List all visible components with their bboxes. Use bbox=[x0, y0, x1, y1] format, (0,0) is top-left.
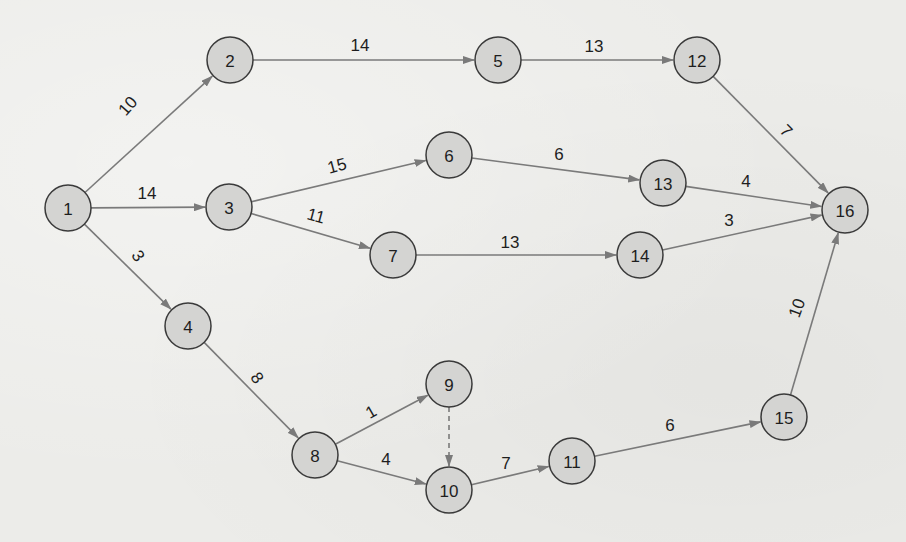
activity-arrow-1-2 bbox=[85, 76, 212, 192]
activity-duration-label-11-15: 6 bbox=[665, 416, 674, 435]
network-diagram: 10143141315116137438147610 1234567891011… bbox=[0, 0, 906, 542]
activity-duration-label-3-7: 11 bbox=[305, 205, 327, 228]
event-node-5: 5 bbox=[475, 37, 521, 83]
activity-arrow-12-16 bbox=[713, 76, 828, 193]
activity-arrow-1-4 bbox=[84, 224, 170, 309]
activity-duration-label-12-16: 7 bbox=[776, 121, 796, 141]
node-label: 8 bbox=[310, 447, 319, 466]
event-node-8: 8 bbox=[292, 432, 338, 478]
node-label: 6 bbox=[444, 147, 453, 166]
activity-duration-label-2-5: 14 bbox=[351, 36, 370, 55]
node-label: 4 bbox=[183, 318, 192, 337]
event-node-4: 4 bbox=[165, 303, 211, 349]
event-node-1: 1 bbox=[45, 185, 91, 231]
activity-duration-label-8-9: 1 bbox=[362, 401, 380, 422]
event-node-2: 2 bbox=[207, 37, 253, 83]
event-node-12: 12 bbox=[674, 37, 720, 83]
event-node-9: 9 bbox=[426, 361, 472, 407]
activity-on-arrow-diagram: 10143141315116137438147610 1234567891011… bbox=[0, 0, 906, 542]
activity-duration-label-3-6: 15 bbox=[325, 154, 348, 177]
event-node-7: 7 bbox=[370, 232, 416, 278]
node-label: 1 bbox=[63, 200, 72, 219]
activity-arrow-11-15 bbox=[595, 422, 761, 456]
activity-arrow-4-8 bbox=[204, 342, 298, 438]
event-node-11: 11 bbox=[549, 438, 595, 484]
node-label: 3 bbox=[224, 199, 233, 218]
activity-duration-label-4-8: 8 bbox=[247, 369, 268, 388]
activity-duration-label-10-11: 7 bbox=[501, 454, 510, 473]
activity-duration-label-14-16: 3 bbox=[724, 211, 733, 230]
node-label: 2 bbox=[225, 52, 234, 71]
node-label: 9 bbox=[444, 376, 453, 395]
activity-duration-label-15-16: 10 bbox=[785, 296, 809, 320]
activity-duration-label-6-13: 6 bbox=[554, 145, 563, 164]
event-node-10: 10 bbox=[426, 467, 472, 513]
activity-arrow-8-9 bbox=[335, 395, 427, 444]
activity-arrow-14-16 bbox=[662, 215, 821, 250]
edges-layer bbox=[84, 60, 838, 485]
event-node-14: 14 bbox=[617, 232, 663, 278]
node-label: 15 bbox=[775, 409, 794, 428]
activity-duration-label-13-16: 4 bbox=[741, 172, 750, 191]
node-label: 16 bbox=[836, 202, 855, 221]
activity-arrow-1-3 bbox=[91, 207, 205, 208]
activity-duration-label-1-4: 3 bbox=[128, 247, 149, 266]
activity-duration-label-1-2: 10 bbox=[115, 93, 142, 120]
edge-labels-layer: 10143141315116137438147610 bbox=[115, 36, 810, 473]
node-label: 14 bbox=[631, 247, 650, 266]
event-node-16: 16 bbox=[822, 187, 868, 233]
node-label: 12 bbox=[688, 52, 707, 71]
activity-duration-label-8-10: 4 bbox=[381, 450, 390, 469]
activity-duration-label-7-14: 13 bbox=[501, 233, 520, 252]
node-label: 10 bbox=[440, 482, 459, 501]
event-node-15: 15 bbox=[761, 394, 807, 440]
activity-duration-label-5-12: 13 bbox=[585, 37, 604, 56]
event-node-13: 13 bbox=[640, 160, 686, 206]
node-label: 7 bbox=[388, 247, 397, 266]
node-label: 13 bbox=[654, 175, 673, 194]
node-label: 11 bbox=[563, 453, 581, 472]
activity-duration-label-1-3: 14 bbox=[138, 184, 157, 203]
event-node-6: 6 bbox=[426, 132, 472, 178]
activity-arrow-13-16 bbox=[686, 186, 822, 206]
node-label: 5 bbox=[493, 52, 502, 71]
event-node-3: 3 bbox=[206, 184, 252, 230]
